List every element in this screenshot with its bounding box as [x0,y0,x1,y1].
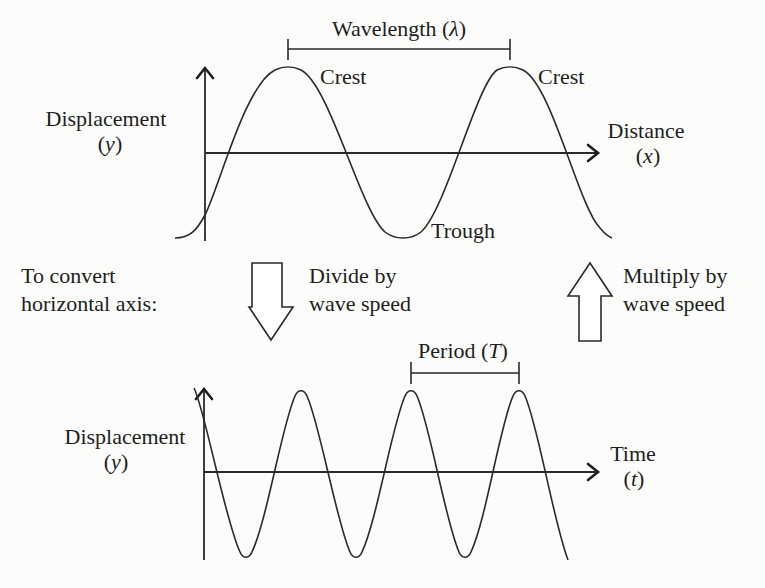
conversion-instruction-line1: To convert [21,263,115,288]
conversion-instruction-line2: horizontal axis: [21,291,157,316]
x-axis-label: Distance [608,118,685,143]
wavelength-label: Wavelength (λ) [332,16,466,41]
x-axis-symbol: (t) [624,466,645,491]
wavelength-bracket [288,39,510,60]
down-arrow-icon [249,263,293,340]
period-bracket [411,362,519,384]
multiply-label-line2: wave speed [623,291,725,316]
y-axis-label: Displacement [46,106,167,131]
wave-diagram: Wavelength (λ) Crest Crest Trough Displa… [0,0,765,588]
x-axis-symbol: (x) [636,143,660,168]
y-axis-symbol: (y) [104,449,128,474]
divide-label-line1: Divide by [309,263,396,288]
y-axis-label: Displacement [65,424,186,449]
distance-graph: Wavelength (λ) Crest Crest Trough Displa… [46,16,685,243]
conversion-section: To convert horizontal axis: Divide by wa… [21,263,728,341]
divide-label-line2: wave speed [309,291,411,316]
time-graph: Period (T) Displacement (y) Time (t) [65,338,656,560]
multiply-label-line1: Multiply by [623,263,728,288]
x-axis-label: Time [610,441,656,466]
period-label: Period (T) [418,338,508,363]
y-axis-symbol: (y) [98,131,122,156]
time-wave [194,388,568,560]
trough-label: Trough [431,218,495,243]
crest-label-2: Crest [538,64,584,89]
up-arrow-icon [568,263,612,341]
crest-label-1: Crest [320,64,366,89]
